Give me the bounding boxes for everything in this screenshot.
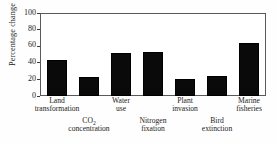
category-line2: invasion xyxy=(161,105,209,113)
y-tick-label-80: 80 xyxy=(16,25,36,33)
y-axis-tick-labels: 100 80 60 40 20 0 xyxy=(14,0,36,143)
bar-co2-concentration xyxy=(79,77,98,96)
y-tick-label-20: 20 xyxy=(16,75,36,83)
subscript-2: 2 xyxy=(93,120,96,126)
category-line2: concentration xyxy=(53,125,125,133)
category-line2: transformation xyxy=(20,105,94,113)
category-label-bird-extinction: Bird extinction xyxy=(191,117,243,134)
bar-water-use xyxy=(111,53,130,96)
category-label-plant-invasion: Plant invasion xyxy=(161,97,209,114)
category-label-nitrogen-fixation: Nitrogen fixation xyxy=(127,117,179,134)
category-line2: fixation xyxy=(127,125,179,133)
category-line2: extinction xyxy=(191,125,243,133)
category-label-marine-fisheries: Marine fisheries xyxy=(224,97,274,114)
y-tick-label-60: 60 xyxy=(16,41,36,49)
y-tick-label-40: 40 xyxy=(16,58,36,66)
category-line2: fisheries xyxy=(224,105,274,113)
category-label-co2-concentration: CO2 concentration xyxy=(53,117,125,134)
y-tick-label-100: 100 xyxy=(16,9,36,17)
bar-plant-invasion xyxy=(175,79,194,96)
bar-land-transformation xyxy=(47,60,66,96)
category-line2: use xyxy=(100,105,142,113)
bar-chart-figure: Percentage change 100 80 60 40 20 0 Land… xyxy=(0,0,276,143)
category-label-land-transformation: Land transformation xyxy=(20,97,94,114)
bar-marine-fisheries xyxy=(239,43,258,96)
bar-nitrogen-fixation xyxy=(143,52,162,96)
plot-area xyxy=(41,14,265,96)
category-label-water-use: Water use xyxy=(100,97,142,114)
bar-bird-extinction xyxy=(207,76,226,96)
